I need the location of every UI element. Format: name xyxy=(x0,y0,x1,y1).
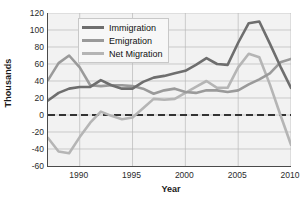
legend-swatch-icon xyxy=(82,26,104,30)
y-tick-label: 20 xyxy=(18,94,44,103)
x-tick-label: 1990 xyxy=(69,170,88,180)
y-tick-label: 100 xyxy=(18,26,44,35)
series-line-net-migration xyxy=(48,54,291,153)
y-tick-label: 40 xyxy=(18,77,44,86)
x-tick-label: 2005 xyxy=(228,170,247,180)
chart-legend: ImmigrationEmigrationNet Migration xyxy=(78,18,169,63)
y-tick-label: -40 xyxy=(18,145,44,154)
legend-swatch-icon xyxy=(82,39,104,43)
y-tick-label: -60 xyxy=(18,162,44,171)
legend-item-label: Emigration xyxy=(109,36,152,46)
x-axis-title: Year xyxy=(47,184,295,194)
y-axis-title-text: Thousands xyxy=(3,59,13,108)
x-tick-label: 2010 xyxy=(281,170,300,180)
legend-item: Immigration xyxy=(82,21,163,34)
migration-line-chart: Thousands 120100806040200-20-40-60 19901… xyxy=(0,0,300,207)
y-axis-title: Thousands xyxy=(1,0,15,166)
legend-item: Emigration xyxy=(82,34,163,47)
y-tick-label: 60 xyxy=(18,60,44,69)
legend-item: Net Migration xyxy=(82,47,163,60)
y-axis-tick-labels: 120100806040200-20-40-60 xyxy=(14,0,44,207)
y-tick-label: 120 xyxy=(18,9,44,18)
legend-item-label: Net Migration xyxy=(109,49,163,59)
legend-item-label: Immigration xyxy=(109,23,156,33)
x-tick-label: 1995 xyxy=(122,170,141,180)
x-tick-label: 2000 xyxy=(175,170,194,180)
y-tick-label: 80 xyxy=(18,43,44,52)
legend-swatch-icon xyxy=(82,52,104,56)
y-tick-label: -20 xyxy=(18,128,44,137)
y-tick-label: 0 xyxy=(18,111,44,120)
